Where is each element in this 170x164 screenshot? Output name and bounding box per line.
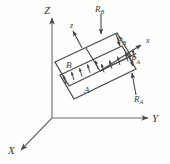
plate-b-label: B	[66, 60, 72, 70]
figure-root: Z Y X A B	[0, 0, 170, 164]
plate-a-label: A	[83, 85, 90, 95]
load-arrow	[80, 68, 83, 77]
y-axis-label: Y	[152, 112, 160, 124]
force-ra-label: RA	[133, 94, 144, 105]
figure-svg: Z Y X A B	[0, 0, 170, 164]
global-axis-x	[21, 118, 52, 150]
local-z-axis-line	[73, 31, 82, 48]
local-z-axis-label: z	[69, 21, 74, 30]
force-pa-label: PA	[130, 54, 141, 65]
local-axis-z	[73, 31, 82, 48]
force-rb-label: RB	[94, 4, 105, 15]
local-x-axis-label: x	[145, 36, 150, 45]
force-pb-label: PB	[116, 35, 127, 46]
load-arrow	[72, 72, 75, 81]
ra-arrow-line	[132, 73, 136, 95]
force-ra-arrow	[132, 73, 136, 95]
load-arrow	[88, 64, 91, 73]
x-axis-label: X	[7, 144, 16, 156]
z-axis-label: Z	[44, 4, 51, 16]
x-axis-line	[21, 118, 52, 150]
